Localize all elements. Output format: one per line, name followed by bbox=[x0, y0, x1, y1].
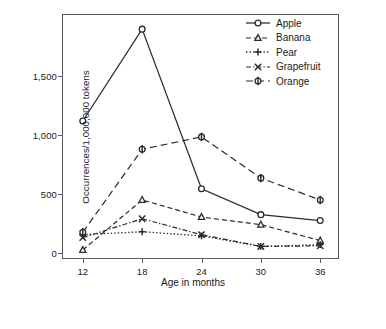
legend-label: Apple bbox=[276, 18, 302, 29]
legend-item-grapefruit[interactable]: Grapefruit bbox=[245, 60, 320, 75]
x-axis-label: Age in months bbox=[0, 277, 386, 288]
x-tick-mark bbox=[142, 258, 143, 263]
legend-label: Grapefruit bbox=[276, 61, 320, 72]
legend-swatch-cross-icon bbox=[245, 60, 271, 74]
y-axis-label: Occurrences/1,000,000 tokens bbox=[80, 70, 91, 203]
data-point-circle bbox=[139, 26, 145, 32]
data-point-circle bbox=[258, 212, 264, 218]
data-point-circle bbox=[255, 20, 261, 26]
data-point-triangle bbox=[198, 214, 204, 220]
data-point-plus bbox=[255, 49, 262, 56]
data-point-circle bbox=[317, 218, 323, 224]
data-point-circle bbox=[199, 186, 205, 192]
y-tick-mark bbox=[58, 135, 63, 136]
legend-swatch-diamond-icon bbox=[245, 74, 271, 88]
data-point-diamond bbox=[199, 133, 205, 141]
legend-swatch-plus-icon bbox=[245, 45, 271, 59]
y-tick-mark bbox=[58, 76, 63, 77]
chart-legend: AppleBananaPearGrapefruitOrange bbox=[245, 16, 320, 89]
data-point-triangle bbox=[139, 197, 145, 203]
legend-item-orange[interactable]: Orange bbox=[245, 74, 320, 89]
legend-label: Orange bbox=[276, 76, 309, 87]
data-point-diamond bbox=[255, 77, 261, 85]
x-tick-mark bbox=[320, 258, 321, 263]
data-point-diamond bbox=[258, 174, 264, 182]
x-tick-mark bbox=[261, 258, 262, 263]
legend-swatch-circle-icon bbox=[245, 16, 271, 30]
data-point-diamond bbox=[317, 196, 323, 204]
series-line-banana bbox=[83, 200, 320, 250]
legend-label: Pear bbox=[276, 47, 297, 58]
legend-item-banana[interactable]: Banana bbox=[245, 31, 320, 46]
data-point-triangle bbox=[255, 34, 261, 40]
chart-figure: Occurrences/1,000,000 tokens 05001,0001,… bbox=[0, 0, 386, 329]
x-tick-mark bbox=[83, 258, 84, 263]
legend-swatch-triangle-icon bbox=[245, 31, 271, 45]
data-point-plus bbox=[198, 232, 205, 239]
legend-item-apple[interactable]: Apple bbox=[245, 16, 320, 31]
data-point-triangle bbox=[258, 221, 264, 227]
data-point-diamond bbox=[139, 145, 145, 153]
legend-item-pear[interactable]: Pear bbox=[245, 45, 320, 60]
legend-label: Banana bbox=[276, 32, 310, 43]
y-tick-mark bbox=[58, 194, 63, 195]
y-tick-mark bbox=[58, 253, 63, 254]
data-point-plus bbox=[139, 228, 146, 235]
x-tick-mark bbox=[202, 258, 203, 263]
